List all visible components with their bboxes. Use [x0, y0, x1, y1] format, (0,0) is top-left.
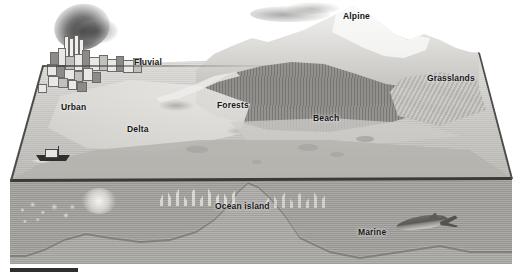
- islet: [252, 160, 262, 164]
- label-grasslands: Grasslands: [427, 74, 475, 83]
- three-d-block: [0, 0, 518, 279]
- building: [58, 78, 68, 88]
- label-ocean-island: Ocean island: [215, 202, 270, 211]
- label-beach: Beach: [313, 114, 339, 123]
- whale-icon: [396, 210, 458, 236]
- coral-reef: [16, 198, 80, 228]
- islet: [186, 146, 208, 153]
- label-marine: Marine: [358, 228, 386, 237]
- islet: [356, 136, 374, 142]
- label-urban: Urban: [61, 103, 86, 112]
- city-buildings: [44, 30, 154, 110]
- building: [77, 82, 87, 92]
- label-forests: Forests: [217, 101, 249, 110]
- block-diagram-figure: AlpineFluvialGrasslandsForestsUrbanBeach…: [0, 0, 518, 279]
- label-delta: Delta: [127, 125, 149, 134]
- block-back-edge: [42, 65, 480, 67]
- building: [92, 72, 101, 83]
- islet: [298, 144, 318, 151]
- boat-cabin: [45, 149, 58, 158]
- boat-mast: [58, 146, 59, 156]
- scale-bar: [10, 268, 78, 272]
- building: [68, 80, 77, 90]
- label-fluvial: Fluvial: [134, 58, 162, 67]
- boat-icon: [36, 146, 72, 162]
- hydrothermal-vent: [82, 188, 116, 214]
- cloud-icon: [286, 2, 340, 14]
- label-alpine: Alpine: [343, 12, 370, 21]
- building: [38, 84, 47, 93]
- islet: [330, 152, 344, 157]
